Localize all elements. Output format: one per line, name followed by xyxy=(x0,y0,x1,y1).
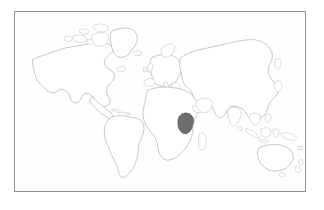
island-pacific-dot xyxy=(299,146,302,149)
landmass-europe-west xyxy=(150,55,182,87)
island-sri-lanka xyxy=(237,127,242,131)
landmass-north-america xyxy=(33,43,114,107)
landmass-south-america xyxy=(104,116,144,177)
landmass-australia xyxy=(257,145,293,172)
figure-container xyxy=(0,0,324,210)
continent-europe[interactable] xyxy=(133,44,182,91)
island-borneo xyxy=(261,128,271,138)
island-madagascar xyxy=(199,133,207,151)
island-philippines xyxy=(265,114,271,123)
island-java xyxy=(259,140,269,143)
island-sulawesi xyxy=(273,129,279,138)
island-newfoundland xyxy=(117,66,126,71)
island-ireland xyxy=(144,67,147,71)
island-banks xyxy=(65,36,73,42)
continent-south-america[interactable] xyxy=(104,116,144,177)
island-cuba xyxy=(112,109,123,113)
island-ellesmere xyxy=(94,24,108,32)
island-iceland xyxy=(133,51,142,56)
landmass-greenland xyxy=(110,28,137,58)
island-new-zealand-north xyxy=(299,159,303,165)
island-arctic-small-1 xyxy=(80,29,90,34)
peninsula-scandinavia xyxy=(161,44,175,58)
island-new-zealand-south xyxy=(295,166,301,173)
island-victoria xyxy=(73,35,87,43)
island-new-guinea xyxy=(281,133,297,141)
peninsula-indochina xyxy=(249,113,260,125)
map-frame xyxy=(14,11,306,192)
world-map[interactable] xyxy=(15,12,305,191)
island-tasmania xyxy=(279,173,285,177)
peninsula-india xyxy=(228,107,242,127)
peninsula-iberia xyxy=(144,78,155,86)
peninsula-kamchatka xyxy=(275,58,281,69)
island-hispaniola xyxy=(125,112,131,114)
island-sumatra xyxy=(246,129,259,138)
